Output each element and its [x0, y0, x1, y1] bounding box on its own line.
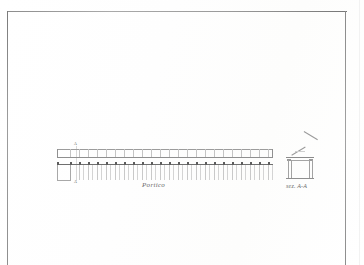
plan-column-projection	[263, 165, 264, 180]
plan-column-projection	[128, 165, 129, 180]
plan-wall-tick	[106, 149, 107, 157]
section-cornice-line	[286, 157, 314, 158]
plan-wall-tick	[169, 149, 170, 157]
plan-column-projection	[92, 165, 93, 180]
section-column-right-b	[312, 160, 313, 178]
plan-wall-tick	[124, 149, 125, 157]
plan-column-projection	[137, 165, 138, 180]
portico-plan-drawing	[57, 146, 273, 186]
plan-wall-tick	[187, 149, 188, 157]
section-column-left-a	[288, 160, 289, 178]
plan-column-projection	[232, 165, 233, 180]
plan-column-projection	[83, 165, 84, 180]
portico-section-drawing	[286, 147, 314, 181]
plan-column-projection	[187, 165, 188, 180]
plan-column-projection	[218, 165, 219, 180]
plan-column-projection	[101, 165, 102, 180]
section-caption-sez-aa: sez. A-A	[286, 183, 307, 189]
plan-column-projection	[164, 165, 165, 180]
plan-column-projection	[250, 165, 251, 180]
plan-column-projection	[151, 165, 152, 180]
plan-wall-tick	[232, 149, 233, 157]
plan-wall-tick	[88, 149, 89, 157]
plan-wall-end-right	[272, 149, 273, 158]
sheet-border-top	[7, 11, 347, 12]
plan-column-projection	[223, 165, 224, 180]
plan-wall-tick	[115, 149, 116, 157]
plan-caption-portico: Portico	[142, 181, 165, 189]
plan-wall-tick	[259, 149, 260, 157]
plan-column-projection	[106, 165, 107, 180]
plan-wall-tick	[151, 149, 152, 157]
plan-column-projection	[209, 165, 210, 180]
plan-column-projection	[178, 165, 179, 180]
plan-column-mark	[57, 162, 59, 165]
plan-wall-tick	[97, 149, 98, 157]
plan-column-projection	[191, 165, 192, 180]
plan-wall-tick	[133, 149, 134, 157]
plan-wall-tick	[241, 149, 242, 157]
plan-column-projection	[110, 165, 111, 180]
plan-column-projection	[146, 165, 147, 180]
plan-column-projection	[196, 165, 197, 180]
plan-column-projection	[160, 165, 161, 180]
plan-return-wall-left-b	[70, 165, 71, 181]
plan-column-projection	[173, 165, 174, 180]
sheet-border-left	[7, 11, 8, 265]
plan-column-projection	[259, 165, 260, 180]
plan-wall-tick	[205, 149, 206, 157]
plan-column-projection	[236, 165, 237, 180]
plan-column-projection	[182, 165, 183, 180]
plan-column-projection	[88, 165, 89, 180]
plan-wall-tick	[70, 149, 71, 157]
plan-column-projection	[268, 165, 269, 180]
plan-column-projection	[115, 165, 116, 180]
plan-column-projection	[245, 165, 246, 180]
plan-wall-tick	[178, 149, 179, 157]
section-column-right-a	[309, 160, 310, 178]
plan-wall-tick	[223, 149, 224, 157]
section-tympanum-line	[295, 151, 305, 152]
plan-column-projection	[200, 165, 201, 180]
drawing-sheet: A A Portico sez. A-A	[0, 0, 364, 265]
plan-column-projection	[119, 165, 120, 180]
plan-wall-line-inner	[57, 157, 273, 158]
plan-column-projection	[142, 165, 143, 180]
plan-column-projection	[272, 165, 273, 180]
plan-column-mark	[70, 162, 72, 165]
plan-column-projection	[124, 165, 125, 180]
plan-wall-tick	[196, 149, 197, 157]
plan-wall-tick	[214, 149, 215, 157]
plan-wall-end-left	[57, 149, 58, 158]
plan-return-base-left	[57, 180, 71, 181]
plan-wall-tick	[160, 149, 161, 157]
plan-return-wall-left-a	[57, 165, 58, 181]
section-column-left-b	[291, 160, 292, 178]
plan-column-projection	[254, 165, 255, 180]
plan-wall-tick	[268, 149, 269, 157]
section-floor-line	[286, 178, 314, 179]
plan-wall-tick	[79, 149, 80, 157]
plan-column-projection	[214, 165, 215, 180]
plan-column-projection	[79, 165, 80, 180]
plan-column-projection	[133, 165, 134, 180]
sheet-edge-shadow-right	[359, 0, 360, 265]
plan-wall-tick	[250, 149, 251, 157]
plan-column-projection	[227, 165, 228, 180]
plan-column-projection	[205, 165, 206, 180]
section-marker-a-bottom: A	[74, 180, 77, 184]
plan-wall-tick	[142, 149, 143, 157]
plan-column-projection	[97, 165, 98, 180]
section-marker-a-top: A	[74, 142, 77, 146]
paper-background	[0, 0, 364, 265]
plan-column-projection	[241, 165, 242, 180]
sheet-border-right	[345, 11, 346, 265]
plan-column-projection	[155, 165, 156, 180]
plan-column-projection	[169, 165, 170, 180]
